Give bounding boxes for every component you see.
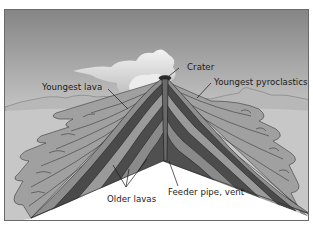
- label-feeder-pipe-vent: Feeder pipe, vent: [168, 188, 244, 197]
- diagram-frame: Crater Youngest lava Youngest pyroclasti…: [4, 9, 309, 221]
- label-older-lavas: Older lavas: [107, 195, 156, 204]
- volcano-illustration: [5, 10, 309, 221]
- label-youngest-lava: Youngest lava: [42, 83, 102, 92]
- label-crater: Crater: [187, 63, 214, 72]
- label-youngest-pyroclastics: Youngest pyroclastics: [214, 78, 308, 87]
